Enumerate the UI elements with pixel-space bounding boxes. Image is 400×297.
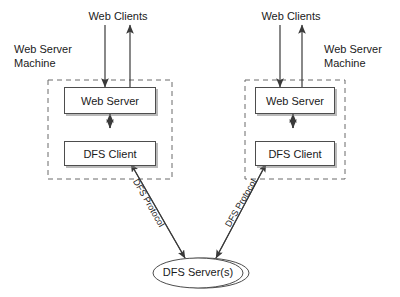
left-machine-label: Web Server Machine: [14, 42, 104, 70]
left-web-server-box[interactable]: Web Server: [64, 87, 156, 114]
right-machine-label: Web Server Machine: [324, 42, 400, 70]
dfs-server-label: DFS Server(s): [153, 266, 243, 278]
left-dfs-client-label: DFS Client: [65, 142, 155, 165]
right-web-server-box[interactable]: Web Server: [255, 87, 335, 114]
left-web-clients-text: Web Clients: [88, 10, 147, 22]
left-machine-label-line2: Machine: [14, 56, 104, 70]
right-dfs-client-box[interactable]: DFS Client: [255, 141, 335, 166]
right-web-clients-label: Web Clients: [241, 10, 341, 22]
dfs-server-node[interactable]: DFS Server(s): [153, 266, 243, 282]
right-machine-label-line2: Machine: [324, 56, 400, 70]
left-web-clients-label: Web Clients: [68, 10, 168, 22]
right-web-server-label: Web Server: [256, 88, 334, 113]
left-web-server-label: Web Server: [65, 88, 155, 113]
right-web-clients-text: Web Clients: [261, 10, 320, 22]
left-dfs-client-box[interactable]: DFS Client: [64, 141, 156, 166]
left-machine-label-line1: Web Server: [14, 42, 104, 56]
dfs-architecture-diagram: Web Clients Web Server Machine Web Serve…: [0, 0, 400, 297]
right-dfs-client-label: DFS Client: [256, 142, 334, 165]
right-machine-label-line1: Web Server: [324, 42, 400, 56]
